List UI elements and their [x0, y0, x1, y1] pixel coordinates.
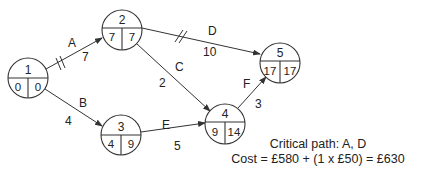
edge-C: C 2: [137, 44, 210, 111]
edge-E: E 5: [141, 118, 205, 153]
edge-label-duration: 7: [82, 50, 89, 64]
edge-label-activity: F: [243, 77, 250, 91]
edge-label-activity: C: [175, 60, 184, 74]
node-id: 1: [25, 63, 32, 77]
edge-label-activity: E: [162, 118, 170, 132]
node-id: 2: [119, 13, 126, 27]
cost-text: Cost = £580 + (1 x £50) = £630: [228, 152, 408, 167]
node-latest: 9: [128, 138, 134, 150]
summary-block: Critical path: A, D Cost = £580 + (1 x £…: [228, 137, 408, 167]
edge-label-duration: 3: [255, 97, 262, 111]
edge-label-activity: D: [208, 24, 217, 38]
edge-F: F 3: [238, 77, 266, 111]
node-earliest: 17: [264, 65, 277, 77]
critical-path-text: Critical path: A, D: [228, 137, 408, 152]
node-id: 4: [222, 107, 229, 121]
edge-label-activity: B: [79, 96, 87, 110]
node-earliest: 9: [212, 126, 218, 138]
node-earliest: 0: [15, 81, 21, 93]
node-latest: 17: [284, 65, 297, 77]
node-3: 3 4 9: [101, 115, 141, 155]
node-latest: 7: [129, 31, 135, 43]
edge-label-duration: 2: [159, 76, 166, 90]
edge-label-duration: 10: [203, 45, 217, 59]
node-earliest: 4: [108, 138, 115, 150]
edge-B: B 4: [45, 89, 102, 128]
node-1: 1 0 0: [8, 58, 48, 98]
node-latest: 0: [35, 81, 41, 93]
node-2: 2 7 7: [102, 10, 142, 50]
node-id: 3: [118, 120, 125, 134]
node-id: 5: [277, 46, 284, 60]
node-5: 5 17 17: [260, 43, 300, 83]
edge-label-activity: A: [68, 36, 76, 50]
edge-D: D 10: [142, 24, 260, 59]
edge-A: A 7: [46, 36, 102, 70]
edge-label-duration: 5: [174, 139, 181, 153]
node-earliest: 7: [109, 31, 115, 43]
edge-label-duration: 4: [65, 114, 72, 128]
